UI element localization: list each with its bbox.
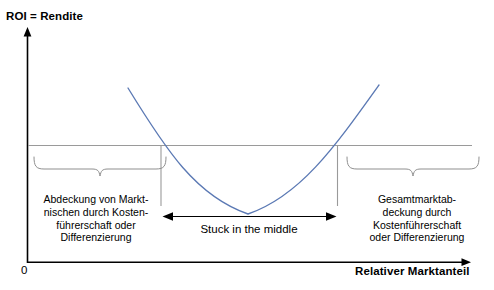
chart-canvas: ROI = Rendite Relativer Marktanteil 0 Ab… [0, 0, 494, 290]
annotation-stuck-in-the-middle: Stuck in the middle [168, 222, 330, 236]
span-arrow-head-right [326, 212, 337, 221]
x-axis-title: Relativer Marktanteil [355, 264, 470, 278]
chart-plot-area [0, 0, 494, 290]
y-axis-arrowhead [24, 27, 32, 37]
annotation-left-niche-strategy: Abdeckung von Markt- nischen durch Koste… [26, 193, 166, 244]
brace-left [34, 157, 166, 176]
origin-label: 0 [21, 263, 27, 277]
brace-right [347, 157, 479, 176]
annotation-right-total-market: Gesamtmarktab- deckung durch Kostenführe… [344, 193, 490, 244]
y-axis-title: ROI = Rendite [6, 9, 83, 23]
